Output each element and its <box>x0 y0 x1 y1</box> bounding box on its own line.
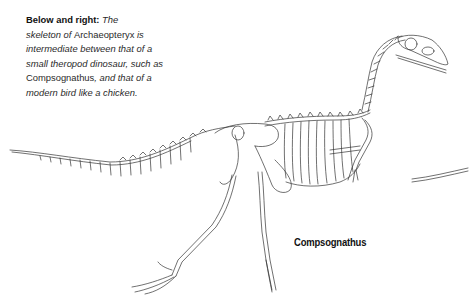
hind-limb-front <box>258 172 276 292</box>
hind-limb-rear <box>132 175 236 294</box>
dorsal-vertebrae <box>265 109 370 126</box>
ribs <box>284 119 360 186</box>
neck-vertebrae <box>362 36 405 112</box>
skull <box>396 35 448 73</box>
compsognathus-skeleton-illustration <box>0 0 470 297</box>
tail-vertebrae <box>10 126 235 176</box>
pelvis <box>215 123 291 192</box>
figure-label: Compsognathus <box>294 236 366 248</box>
partial-tail-next-figure <box>412 168 468 182</box>
